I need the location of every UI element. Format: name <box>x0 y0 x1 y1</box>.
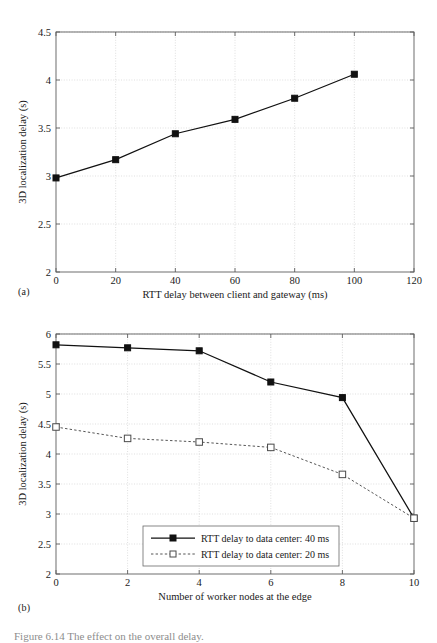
data-point-marker <box>232 116 238 122</box>
data-point-marker <box>53 342 59 348</box>
data-point-marker <box>125 345 131 351</box>
y-axis-title: 3D localization delay (s) <box>17 402 29 506</box>
data-point-marker <box>268 379 274 385</box>
figure-container: 22.533.544.5020406080100120RTT delay bet… <box>0 0 437 643</box>
chart-b-canvas: 22.533.544.555.560246810Number of worker… <box>0 318 437 618</box>
y-tick-label: 4 <box>46 75 52 86</box>
legend-label-0: RTT delay to data center: 40 ms <box>201 533 329 544</box>
y-tick-label: 2 <box>46 569 51 580</box>
legend-sample-marker <box>170 551 176 557</box>
data-point-marker <box>124 435 131 442</box>
x-tick-label: 10 <box>409 577 420 588</box>
x-tick-label: 0 <box>53 275 58 286</box>
y-tick-label: 2.5 <box>38 539 51 550</box>
x-tick-label: 120 <box>406 275 422 286</box>
series-line-0 <box>56 345 414 518</box>
x-tick-label: 60 <box>230 275 241 286</box>
panel-b-tag: (b) <box>18 602 30 613</box>
y-tick-label: 2.5 <box>38 219 51 230</box>
x-tick-label: 8 <box>340 577 345 588</box>
y-tick-label: 3.5 <box>38 123 51 134</box>
data-point-marker <box>53 424 60 431</box>
chart-panel-b: 22.533.544.555.560246810Number of worker… <box>0 318 437 618</box>
chart-a-canvas: 22.533.544.5020406080100120RTT delay bet… <box>0 14 437 304</box>
y-tick-label: 4.5 <box>38 27 51 38</box>
series-line-1 <box>56 427 414 518</box>
data-point-marker <box>268 444 275 451</box>
x-tick-label: 0 <box>53 577 58 588</box>
y-tick-label: 4 <box>46 449 52 460</box>
x-axis-title: Number of worker nodes at the edge <box>158 591 312 602</box>
data-point-marker <box>196 439 203 446</box>
x-tick-label: 100 <box>346 275 362 286</box>
data-point-marker <box>339 471 346 478</box>
y-tick-label: 5.5 <box>38 359 51 370</box>
x-tick-label: 6 <box>268 577 273 588</box>
data-point-marker <box>351 71 357 77</box>
y-axis-title: 3D localization delay (s) <box>17 100 29 204</box>
y-tick-label: 3 <box>46 509 51 520</box>
chart-panel-a: 22.533.544.5020406080100120RTT delay bet… <box>0 14 437 304</box>
data-point-marker <box>113 157 119 163</box>
y-tick-label: 3.5 <box>38 479 51 490</box>
y-tick-label: 2 <box>46 267 51 278</box>
legend-sample-marker <box>170 535 176 541</box>
y-tick-label: 6 <box>46 329 51 340</box>
data-point-marker <box>411 515 418 522</box>
series-line-0 <box>56 74 354 178</box>
legend-label-1: RTT delay to data center: 20 ms <box>201 549 329 560</box>
x-tick-label: 20 <box>110 275 121 286</box>
x-tick-label: 80 <box>289 275 300 286</box>
data-point-marker <box>339 395 345 401</box>
y-tick-label: 5 <box>46 389 51 400</box>
y-tick-label: 3 <box>46 171 51 182</box>
data-point-marker <box>53 175 59 181</box>
figure-caption: Figure 6.14 The effect on the overall de… <box>14 630 434 643</box>
data-point-marker <box>172 131 178 137</box>
data-point-marker <box>196 348 202 354</box>
x-tick-label: 40 <box>170 275 181 286</box>
x-tick-label: 2 <box>125 577 130 588</box>
panel-a-tag: (a) <box>18 286 30 297</box>
x-tick-label: 4 <box>197 577 203 588</box>
data-point-marker <box>292 95 298 101</box>
x-axis-title: RTT delay between client and gateway (ms… <box>142 289 328 301</box>
y-tick-label: 4.5 <box>38 419 51 430</box>
